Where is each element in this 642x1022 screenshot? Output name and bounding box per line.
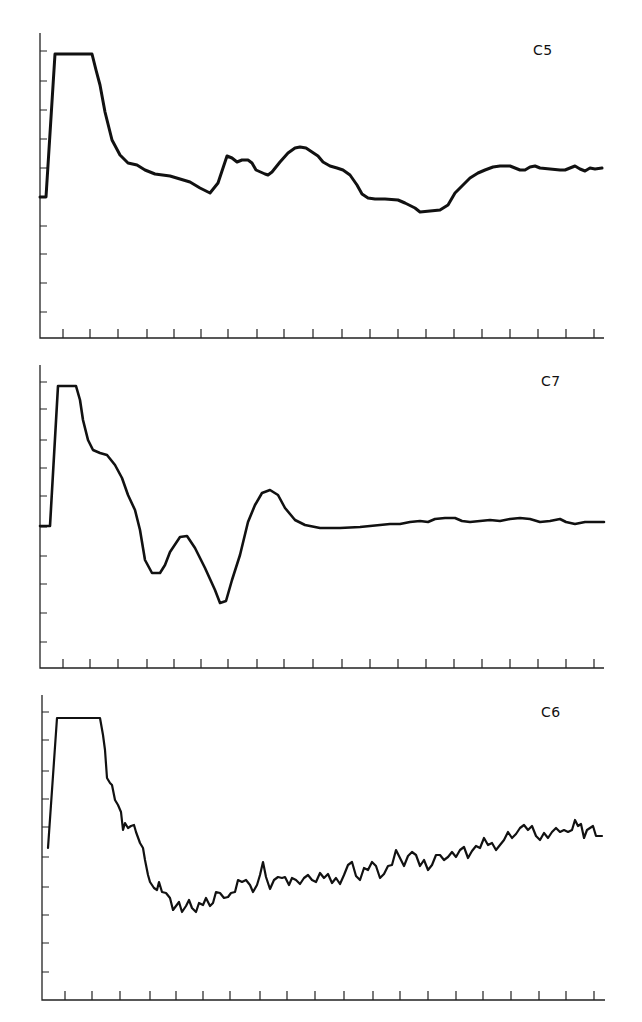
- chart-c5: [40, 33, 604, 338]
- line-charts: [0, 0, 642, 1022]
- ticks-c7: [40, 382, 594, 668]
- trace-c7: [40, 386, 604, 603]
- chart-label-c5: C5: [533, 42, 553, 58]
- figure: C5 C7 C6: [0, 0, 642, 1022]
- trace-c5: [40, 54, 602, 212]
- chart-c6: [42, 695, 605, 1000]
- chart-label-c7: C7: [541, 373, 561, 389]
- chart-c7: [40, 365, 604, 668]
- chart-label-c6: C6: [541, 704, 561, 720]
- ticks-c6: [42, 712, 594, 1000]
- axis-c7: [40, 365, 604, 668]
- trace-c6: [48, 718, 602, 912]
- axis-c6: [42, 695, 605, 1000]
- axis-c5: [40, 33, 604, 338]
- ticks-c5: [40, 51, 594, 338]
